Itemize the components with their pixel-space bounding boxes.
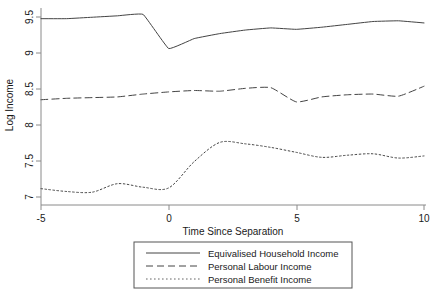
- chart-figure: Log Income 7 7.5 8 8.5 9 9.5 -5 0 5 10 T…: [0, 0, 431, 291]
- legend-label: Personal Benefit Income: [208, 274, 312, 285]
- y-tick-label: 7: [24, 194, 35, 200]
- y-tick-label: 7.5: [24, 154, 35, 168]
- y-tick-label: 9.5: [24, 10, 35, 24]
- x-tick-label: 0: [166, 213, 172, 224]
- x-tick-label: -5: [37, 213, 46, 224]
- y-tick-label: 9: [24, 50, 35, 56]
- y-axis-label: Log Income: [4, 78, 15, 131]
- x-tick-label: 10: [418, 213, 430, 224]
- y-tick-label: 8: [24, 122, 35, 128]
- legend-label: Equivalised Household Income: [208, 248, 338, 259]
- x-tick-label: 5: [294, 213, 300, 224]
- y-tick-label: 8.5: [24, 82, 35, 96]
- legend-label: Personal Labour Income: [208, 261, 312, 272]
- x-axis-label: Time Since Separation: [183, 226, 284, 237]
